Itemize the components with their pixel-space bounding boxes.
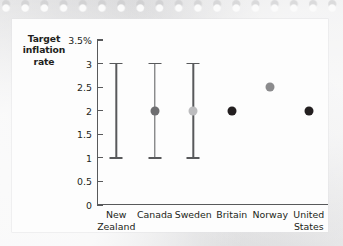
range-cap-upper [148,63,161,64]
range-cap-lower [110,157,123,158]
y-axis-tick-label: 1 [12,152,92,163]
range-line [116,64,117,158]
series-column[interactable]: NewZealand [97,19,136,232]
x-axis-category-label-line: Canada [137,209,173,221]
x-axis-category-label: NewZealand [97,209,135,232]
x-axis-category-label-line: Zealand [97,221,135,233]
x-axis-category-label-line: States [293,221,324,233]
x-axis-category-label: Norway [252,209,288,221]
y-axis-tick-label: 3.5% [12,35,92,46]
y-axis-tick-label: 2 [12,105,92,116]
y-axis-tick-label: 3 [12,58,92,69]
x-axis-category-label: UnitedStates [293,209,324,232]
x-axis-category-label-line: Britain [216,209,247,221]
range-cap-upper [187,63,200,64]
x-axis-category-label-line: Norway [252,209,288,221]
x-axis-category-label: Canada [137,209,173,221]
data-point-marker[interactable] [227,106,236,115]
x-axis-category-label-line: New [97,209,135,221]
x-axis-category-label-line: United [293,209,324,221]
data-point-marker[interactable] [150,106,159,115]
data-point-marker[interactable] [189,106,198,115]
series-column[interactable]: UnitedStates [290,19,329,232]
x-axis-category-label: Britain [216,209,247,221]
series-column[interactable]: Canada [136,19,175,232]
chart-plot-area: Target inflation rate 3.5%32.521.510.50 … [12,19,328,232]
x-axis-category-label-line: Sweden [175,209,212,221]
y-axis-tick-label: 0 [12,200,92,211]
range-cap-lower [148,157,161,158]
data-point-marker[interactable] [266,83,275,92]
chart-card: Target inflation rate 3.5%32.521.510.50 … [12,19,328,232]
y-axis-tick-label: 1.5 [12,129,92,140]
range-cap-upper [110,63,123,64]
series-column[interactable]: Sweden [174,19,213,232]
y-axis-tick-label: 2.5 [12,82,92,93]
series-column[interactable]: Norway [251,19,290,232]
data-point-marker[interactable] [304,106,313,115]
perforation-dots [0,0,343,17]
y-axis-tick-label: 0.5 [12,176,92,187]
range-cap-lower [187,157,200,158]
series-column[interactable]: Britain [213,19,252,232]
x-axis-category-label: Sweden [175,209,212,221]
